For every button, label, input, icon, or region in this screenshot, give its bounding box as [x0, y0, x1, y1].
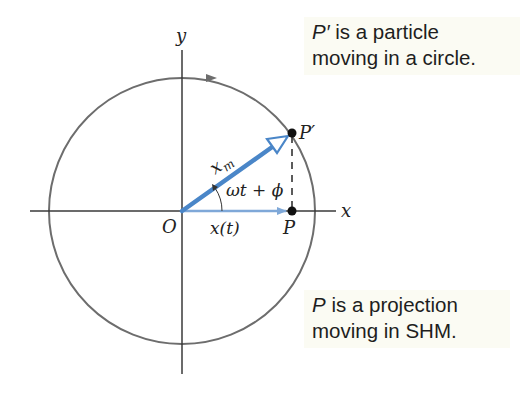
- particle-callout-line2: moving in a circle.: [312, 46, 476, 69]
- particle-callout-var: P′: [312, 20, 330, 43]
- angle-label: ωt + ϕ: [226, 180, 284, 200]
- shm-diagram: y x O P′ P x(t) ωt + ϕ x m P′ is a parti…: [0, 0, 532, 395]
- particle-callout: P′ is a particle moving in a circle.: [304, 17, 520, 75]
- projection-callout-var: P: [312, 293, 326, 316]
- x-axis-label: x: [341, 200, 351, 221]
- angle-arc: [215, 188, 222, 211]
- phasor-vector: [182, 145, 275, 211]
- projection-callout-line2: moving in SHM.: [312, 319, 457, 342]
- y-axis-label: y: [175, 25, 187, 46]
- projection-callout: P is a projection moving in SHM.: [304, 290, 510, 348]
- origin-label: O: [162, 216, 177, 237]
- particle-label: P′: [298, 122, 315, 143]
- particle-point: [288, 129, 297, 138]
- displacement-label: x(t): [210, 218, 240, 238]
- projection-callout-line1: is a projection: [326, 293, 458, 316]
- projection-label: P: [282, 217, 296, 238]
- particle-callout-line1: is a particle: [330, 20, 439, 43]
- projection-point: [288, 207, 297, 216]
